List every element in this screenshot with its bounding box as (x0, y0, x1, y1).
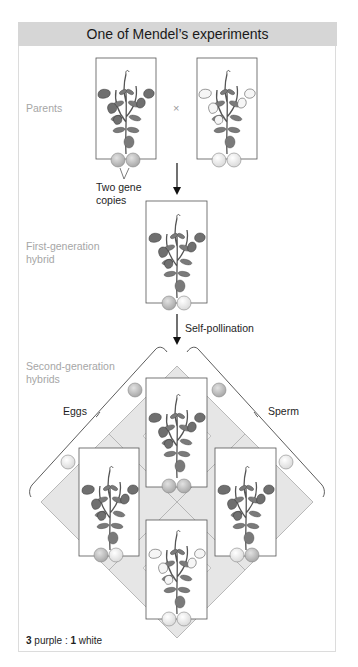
first-generation-label: First-generation hybrid (26, 240, 100, 266)
gene-copies-pointer (120, 168, 129, 179)
gene-copies-label: Two gene copies (96, 181, 142, 207)
egg-allele-purple-icon (128, 383, 142, 397)
allele-white-icon (227, 153, 241, 167)
mendel-diagram (0, 0, 358, 667)
allele-white-icon (177, 296, 191, 310)
cross-icon: × (173, 102, 179, 114)
eggs-label: Eggs (63, 405, 87, 418)
allele-purple-icon (162, 296, 176, 310)
arrow-down-icon (173, 314, 181, 345)
second-generation-label: Second-generation hybrids (26, 360, 115, 386)
allele-purple-icon (126, 153, 140, 167)
parents-label: Parents (26, 102, 62, 115)
phenotype-ratio: 3 purple : 1 white (26, 635, 102, 646)
sperm-allele-white-icon (279, 455, 293, 469)
f1-hybrid-plant (146, 201, 207, 310)
parent-purple-plant (96, 58, 156, 167)
arrow-down-icon (173, 163, 181, 195)
allele-white-icon (212, 153, 226, 167)
self-pollination-label: Self-pollination (185, 322, 254, 335)
sperm-label: Sperm (268, 405, 299, 418)
f2-left-plant (79, 448, 139, 562)
allele-purple-icon (111, 153, 125, 167)
egg-allele-white-icon (61, 455, 75, 469)
sperm-allele-purple-icon (212, 383, 226, 397)
parent-white-plant (197, 58, 257, 167)
f2-top-plant (146, 378, 207, 493)
f2-right-plant (215, 448, 276, 562)
f2-bottom-plant (146, 520, 207, 626)
